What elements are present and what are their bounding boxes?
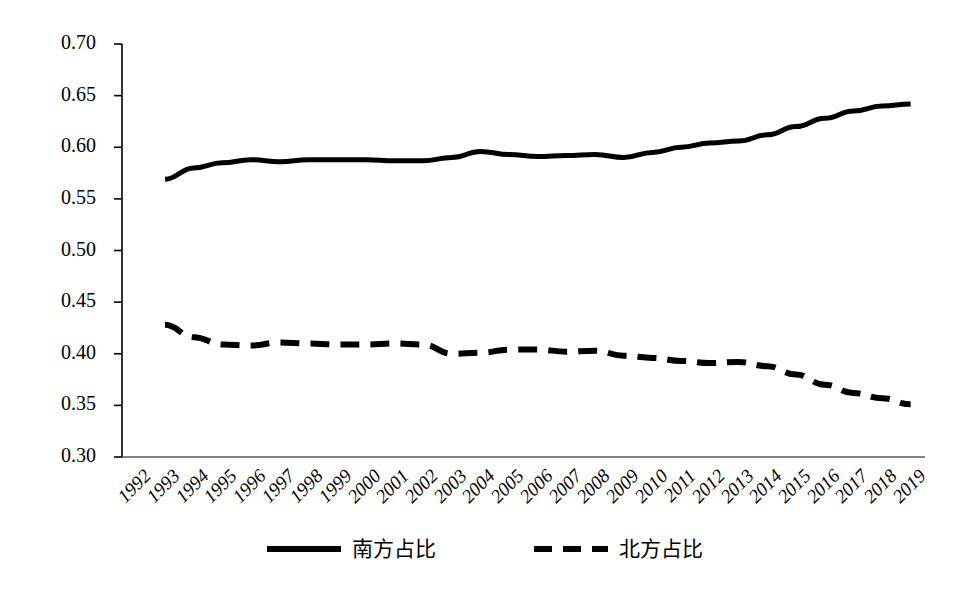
legend-key-dashed-icon	[532, 542, 610, 556]
series-line-north	[165, 325, 911, 405]
chart-container: 0.700.650.600.550.500.450.400.350.30 199…	[0, 0, 968, 595]
y-axis-tick-label: 0.70	[32, 31, 96, 54]
legend-key-solid-icon	[265, 542, 343, 556]
y-axis-ticks	[114, 44, 122, 457]
y-axis-tick-label: 0.55	[32, 186, 96, 209]
legend-label-south: 南方占比	[352, 539, 436, 560]
y-axis-tick-label: 0.35	[32, 392, 96, 415]
series-line-south	[165, 104, 911, 179]
chart-legend: 南方占比 北方占比	[0, 528, 968, 570]
y-axis-tick-label: 0.40	[32, 341, 96, 364]
y-axis-tick-label: 0.65	[32, 83, 96, 106]
y-axis-tick-label: 0.45	[32, 289, 96, 312]
y-axis-tick-label: 0.30	[32, 444, 96, 467]
data-series-layer	[165, 104, 911, 404]
y-axis-tick-label: 0.60	[32, 134, 96, 157]
y-axis-tick-label: 0.50	[32, 238, 96, 261]
legend-item-south: 南方占比	[265, 539, 436, 560]
legend-label-north: 北方占比	[619, 539, 703, 560]
legend-item-north: 北方占比	[532, 539, 703, 560]
